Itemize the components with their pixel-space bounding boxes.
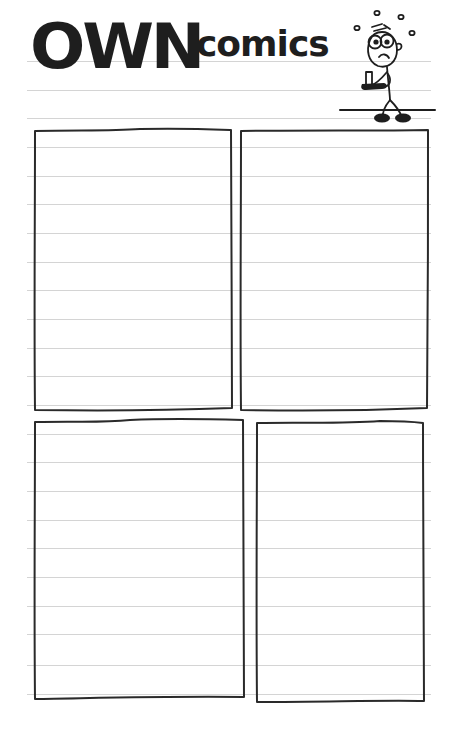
comic-panel-1[interactable] xyxy=(35,131,232,410)
comic-panel-3[interactable] xyxy=(35,421,244,698)
comic-panel-2[interactable] xyxy=(241,131,428,410)
comic-panel-4[interactable] xyxy=(257,422,424,702)
